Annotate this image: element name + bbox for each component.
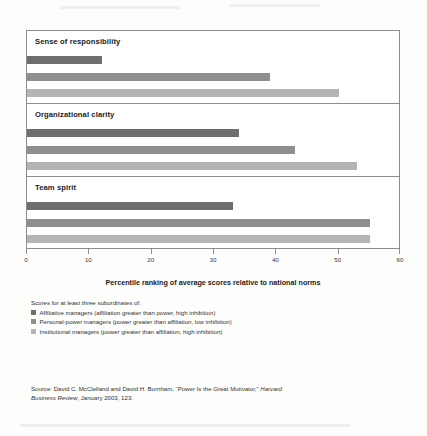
legend-item-institutional: Institutional managers (power greater th… — [31, 328, 361, 335]
x-axis-tick-label: 30 — [210, 256, 217, 263]
x-axis-tick-label: 40 — [272, 256, 279, 263]
source-citation: Source: David C. McClelland and David H.… — [31, 384, 401, 402]
panel-title: Organizational clarity — [35, 110, 114, 119]
x-axis-tick — [26, 249, 27, 254]
bar-personal-power — [27, 219, 370, 227]
chart-panel-sense-of-responsibility: Sense of responsibility — [27, 31, 399, 104]
source-line-2-rest: , January 2003, 123. — [77, 394, 133, 401]
legend-item-personal-power: Personal-power managers (power greater t… — [31, 318, 361, 325]
scan-artifact — [20, 424, 350, 427]
x-axis: 0102030405060 — [26, 249, 400, 271]
bar-personal-power — [27, 146, 295, 154]
x-axis-title: Percentile ranking of average scores rel… — [26, 278, 400, 287]
panel-title: Sense of responsibility — [35, 37, 120, 46]
source-line-1-prefix: Source: David C. McClelland and David H.… — [31, 385, 260, 392]
bar-institutional — [27, 89, 339, 97]
legend-swatch-icon — [31, 329, 36, 334]
bar-affiliative — [27, 56, 102, 64]
chart-panel-team-spirit: Team spirit — [27, 177, 399, 250]
x-axis-tick — [88, 249, 89, 254]
legend-item-affiliative: Affiliative managers (affiliation greate… — [31, 309, 361, 316]
x-axis-tick-label: 50 — [334, 256, 341, 263]
legend-item-label: Affiliative managers (affiliation greate… — [40, 309, 216, 316]
bar-chart: Sense of responsibility Organizational c… — [26, 30, 400, 249]
x-axis-tick — [151, 249, 152, 254]
scan-artifact — [60, 6, 180, 9]
legend-intro: Scores for at least three subordinates o… — [31, 299, 361, 306]
x-axis-tick-label: 60 — [397, 256, 404, 263]
bar-affiliative — [27, 202, 233, 210]
source-line-1-italic: Harvard — [260, 385, 282, 392]
x-axis-tick-label: 10 — [85, 256, 92, 263]
x-axis-tick-label: 20 — [147, 256, 154, 263]
bar-institutional — [27, 235, 370, 243]
x-axis-tick — [399, 249, 400, 254]
bar-personal-power — [27, 73, 270, 81]
x-axis-tick — [338, 249, 339, 254]
legend-item-label: Personal-power managers (power greater t… — [40, 318, 232, 325]
x-axis-tick — [213, 249, 214, 254]
bar-institutional — [27, 162, 357, 170]
panel-title: Team spirit — [35, 183, 76, 192]
x-axis-tick-label: 0 — [24, 256, 27, 263]
scan-artifact — [230, 4, 320, 7]
source-line-2-italic: Business Review — [31, 394, 77, 401]
bar-affiliative — [27, 129, 239, 137]
x-axis-tick — [275, 249, 276, 254]
chart-panel-organizational-clarity: Organizational clarity — [27, 104, 399, 177]
legend-item-label: Institutional managers (power greater th… — [40, 328, 223, 335]
legend: Scores for at least three subordinates o… — [31, 299, 361, 337]
legend-swatch-icon — [31, 319, 36, 324]
legend-swatch-icon — [31, 310, 36, 315]
